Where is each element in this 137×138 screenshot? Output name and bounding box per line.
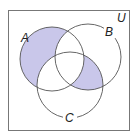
venn-diagram: U A B C bbox=[0, 0, 137, 138]
label-c: C bbox=[65, 111, 74, 125]
label-u: U bbox=[117, 11, 126, 25]
label-a: A bbox=[20, 31, 29, 45]
label-b: B bbox=[105, 25, 113, 39]
